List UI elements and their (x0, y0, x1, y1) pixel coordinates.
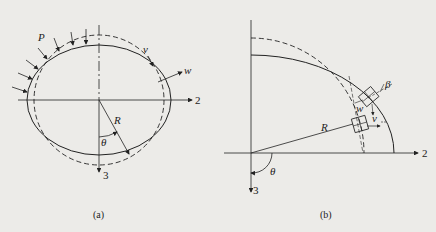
w-arrow (158, 72, 182, 82)
label-v: v (143, 43, 148, 55)
v-arrow (148, 56, 153, 66)
label-P: P (37, 31, 45, 43)
label-theta-b: θ (270, 165, 276, 177)
figure-b: R β w v θ 2 3 (b) (224, 20, 428, 221)
beta-line (380, 84, 384, 92)
undeformed-element (351, 115, 368, 132)
label-axis-3: 3 (103, 169, 109, 181)
label-beta: β (384, 78, 391, 90)
caption-b: (b) (320, 209, 332, 221)
deformed-arc (251, 55, 394, 153)
label-w-b: w (356, 102, 364, 114)
figure-a: P v w R θ 2 3 (a) (12, 25, 201, 221)
theta-arc-b (251, 153, 272, 173)
label-axis-2-b: 2 (422, 147, 428, 159)
label-axis-3-b: 3 (253, 184, 259, 196)
label-axis-2: 2 (195, 94, 201, 106)
label-v-b: v (372, 112, 377, 124)
caption-a: (a) (93, 209, 104, 221)
label-theta: θ (101, 136, 107, 148)
label-w: w (184, 64, 192, 76)
radius-line-b (251, 124, 353, 153)
label-R: R (113, 114, 121, 126)
diagram-canvas: P v w R θ 2 3 (a) R (0, 0, 436, 232)
label-R-b: R (320, 121, 328, 133)
reference-dash-line (349, 76, 363, 153)
